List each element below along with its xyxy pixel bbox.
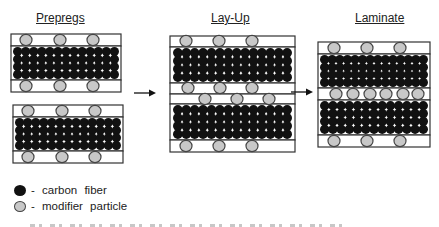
modifier-particle [263, 93, 275, 104]
modifier-particle [246, 35, 258, 46]
interlayer-modifier-particle [364, 88, 376, 99]
interlayer-modifier-particle [347, 88, 359, 99]
modifier-particle [361, 135, 373, 146]
interlayer-modifier-particle [412, 88, 424, 99]
modifier-particle [56, 105, 68, 116]
legend-carbon-fiber: - carbon fiber [14, 184, 107, 196]
modifier-particle [394, 135, 406, 146]
modifier-particle [180, 140, 192, 151]
modifier-particle [22, 151, 34, 162]
cropped-caption-fragment [30, 224, 350, 227]
modifier-particle [89, 151, 101, 162]
modifier-particle [394, 42, 406, 53]
interlayer-modifier-particle [397, 88, 409, 99]
modifier-particle [54, 34, 66, 45]
legend-modifier-particle: - modifier particle [14, 200, 127, 212]
modifier-particle [199, 93, 211, 104]
legend-label-modifier-particle: - modifier particle [31, 200, 127, 212]
modifier-particle [22, 105, 34, 116]
modifier-particle [89, 105, 101, 116]
modifier-particle-icon [14, 201, 26, 212]
modifier-particle [246, 140, 258, 151]
diagram: Prepregs Lay-Up Laminate - carbon fiber … [0, 0, 439, 227]
legend-label-carbon-fiber: - carbon fiber [31, 184, 107, 196]
modifier-particle [20, 34, 32, 45]
modifier-particle [54, 80, 66, 91]
modifier-particle [328, 135, 340, 146]
modifier-particle [328, 42, 340, 53]
modifier-particle [213, 140, 225, 151]
modifier-particle [56, 151, 68, 162]
interlayer-modifier-particle [330, 88, 342, 99]
modifier-particle [20, 80, 32, 91]
modifier-particle [361, 42, 373, 53]
modifier-particle [182, 82, 194, 93]
interlayer-modifier-particle [380, 88, 392, 99]
modifier-particle [87, 34, 99, 45]
carbon-fiber-icon [14, 185, 26, 196]
arrow-to-layup-head [149, 90, 156, 97]
modifier-particle [214, 82, 226, 93]
modifier-particle [213, 35, 225, 46]
modifier-particle [231, 93, 243, 104]
modifier-particle [180, 35, 192, 46]
modifier-particle [87, 80, 99, 91]
arrow-to-laminate-head [306, 89, 313, 96]
modifier-particle [246, 82, 258, 93]
